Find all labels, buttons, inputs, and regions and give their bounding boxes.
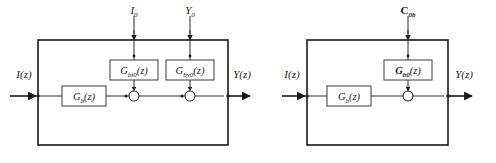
top-input-node-dot-left-2 bbox=[189, 55, 192, 58]
summing-junction-left-2 bbox=[185, 91, 195, 101]
diagram-right: Gb(z) Gb0(z) I(z) Y(z) C0b bbox=[282, 4, 473, 145]
sum-input-dot-left-1 bbox=[125, 95, 128, 98]
injection-block-tail-right-1: (z) bbox=[410, 65, 422, 77]
top-input-sub-left-1: 0 bbox=[134, 11, 138, 19]
forward-block-tail-right: (z) bbox=[349, 91, 361, 103]
output-node-dot-right bbox=[446, 94, 449, 97]
top-input-sub-left-2: 0 bbox=[191, 11, 195, 19]
output-label-left: Y(z) bbox=[233, 68, 251, 81]
input-node-dot-right bbox=[305, 94, 308, 97]
forward-block-tail-left: (z) bbox=[84, 91, 96, 103]
input-label-right: I(z) bbox=[283, 68, 300, 81]
sum-input-dot-left-2 bbox=[181, 95, 184, 98]
top-input-sub-right-1: 0b bbox=[408, 11, 416, 19]
output-node-dot-left bbox=[226, 94, 229, 97]
top-input-label-left-1: I0 bbox=[129, 4, 138, 19]
injection-block-tail-left-2: (z) bbox=[193, 65, 205, 77]
diagram-left: Gb(z) Gbi0(z) Gby0(z) bbox=[10, 4, 251, 145]
top-input-label-right-1: C0b bbox=[401, 4, 416, 19]
summing-junction-right-1 bbox=[403, 91, 413, 101]
top-input-node-dot-right-1 bbox=[407, 55, 410, 58]
diagram-canvas: Gb(z) Gbi0(z) Gby0(z) bbox=[0, 0, 496, 163]
top-input-node-dot-left-1 bbox=[133, 55, 136, 58]
output-label-right: Y(z) bbox=[455, 68, 473, 81]
injection-block-tail-left-1: (z) bbox=[137, 65, 149, 77]
block-diagram-figure: Gb(z) Gbi0(z) Gby0(z) bbox=[0, 0, 496, 163]
summing-junction-left-1 bbox=[129, 91, 139, 101]
input-node-dot-left bbox=[36, 94, 39, 97]
top-input-base-right-1: C bbox=[401, 4, 409, 16]
input-label-left: I(z) bbox=[15, 68, 32, 81]
injection-block-sub-left-2: by0 bbox=[183, 71, 194, 79]
